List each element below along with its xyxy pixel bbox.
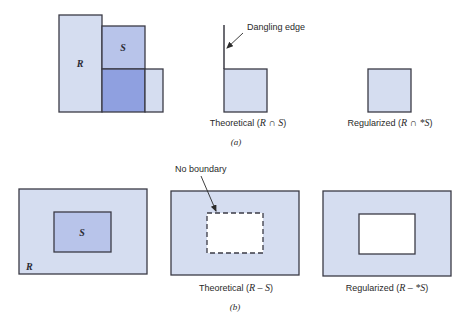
r-label: R [76,58,84,69]
r-label: R [25,261,33,272]
closed-hole [359,214,415,254]
s-label: S [79,227,85,238]
part-a-label: (a) [231,137,242,147]
dangling-edge-arrow [227,33,243,48]
regularized-boolean-operations-diagram: R S Dangling edge Theoretical (R ∩ S) Re… [0,0,472,323]
regularized-difference-caption: Regularized (R – *S) [346,282,429,293]
dangling-edge-annotation: Dangling edge [247,22,305,32]
part-b-label: (b) [230,302,241,312]
regularized-intersection-square [368,69,411,112]
regularized-intersection-caption: Regularized (R ∩ *S) [348,117,433,128]
part-a-theoretical: Dangling edge Theoretical (R ∩ S) [210,22,305,128]
part-b-regularized: Regularized (R – *S) [323,191,451,293]
theoretical-intersection-caption: Theoretical (R ∩ S) [210,117,286,128]
theoretical-intersection-square [224,69,267,112]
open-hole-no-boundary [207,213,263,253]
operand-overlap [102,69,145,112]
theoretical-difference-caption: Theoretical (R – S) [199,282,273,293]
part-b-operands: S R [19,189,147,274]
no-boundary-annotation: No boundary [175,164,227,174]
part-a-operands: R S [59,15,163,112]
part-a: R S Dangling edge Theoretical (R ∩ S) Re… [59,15,432,147]
part-a-regularized: Regularized (R ∩ *S) [348,69,433,128]
part-b: S R No boundary Theoretical (R – S) Regu… [19,164,451,312]
operand-r-lower-right [145,69,163,112]
s-label: S [120,42,126,53]
part-b-theoretical: No boundary Theoretical (R – S) [171,164,299,293]
